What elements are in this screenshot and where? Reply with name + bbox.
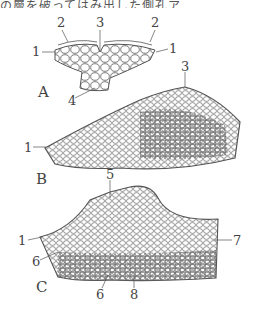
panel-c-section: [28, 180, 232, 288]
panel-label-b: B: [36, 172, 47, 187]
marker-a-3: 3: [96, 16, 104, 29]
panel-b-section: [33, 72, 240, 169]
marker-b-1: 1: [24, 141, 32, 154]
marker-a-1-right: 1: [169, 42, 177, 55]
marker-a-2-left: 2: [57, 16, 65, 29]
panel-label-a: A: [38, 85, 49, 100]
marker-a-2-right: 2: [151, 16, 159, 29]
marker-c-5: 5: [106, 168, 114, 181]
panel-label-c: C: [36, 280, 47, 295]
panel-a-section: [42, 30, 168, 98]
marker-c-1: 1: [18, 234, 26, 247]
marker-c-7: 7: [233, 234, 241, 247]
marker-c-6-bottom: 6: [96, 288, 104, 301]
marker-a-1-left: 1: [32, 45, 40, 58]
marker-b-3: 3: [181, 60, 189, 73]
marker-c-8: 8: [130, 288, 138, 301]
marker-c-6-left: 6: [32, 255, 40, 268]
marker-a-4: 4: [68, 94, 76, 107]
